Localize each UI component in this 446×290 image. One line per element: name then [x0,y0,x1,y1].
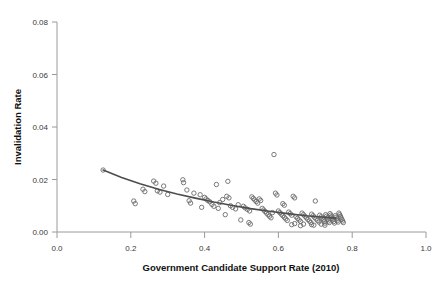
x-tick-label: 0.4 [199,244,211,253]
y-tick-label: 0.08 [32,18,48,27]
scatter-point [199,205,203,209]
x-tick-label: 0.6 [273,244,285,253]
scatter-point [192,191,196,195]
scatter-point [313,199,317,203]
scatter-point [185,188,189,192]
x-tick-label: 0.0 [51,244,63,253]
scatter-point [161,184,165,188]
scatter-point [272,152,276,156]
chart-canvas: 0.000.020.040.060.08 0.00.20.40.60.81.0 … [0,0,446,290]
scatter-point [239,218,243,222]
scatter-point [166,192,170,196]
y-axis-tick-group: 0.000.020.040.060.08 [32,18,57,237]
scatter-point [220,197,224,201]
scatter-point [198,193,202,197]
scatter-point [223,212,227,216]
scatter-point [214,182,218,186]
scatter-plot-figure: 0.000.020.040.060.08 0.00.20.40.60.81.0 … [0,0,446,290]
y-axis-title: Invalidation Rate [12,89,23,165]
scatter-point [216,206,220,210]
x-axis-title: Government Candidate Support Rate (2010) [143,262,340,273]
x-tick-label: 0.2 [125,244,137,253]
x-tick-label: 1.0 [420,244,432,253]
y-tick-label: 0.02 [32,176,48,185]
y-tick-label: 0.06 [32,71,48,80]
y-tick-label: 0.04 [32,123,48,132]
x-tick-label: 0.8 [347,244,359,253]
scatter-point [226,179,230,183]
scatter-point [181,180,185,184]
x-axis-tick-group: 0.00.20.40.60.81.0 [51,232,432,253]
y-tick-label: 0.00 [32,228,48,237]
